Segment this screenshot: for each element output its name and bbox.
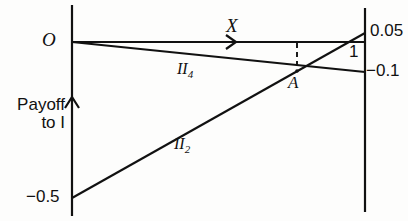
x-axis-label: X <box>226 16 238 36</box>
right-tick-label-005: 0.05 <box>370 22 403 40</box>
left-tick-label-neg05: −0.5 <box>26 188 60 206</box>
line-ii4-label-main: II <box>177 60 188 77</box>
payoff-axis-label-line2: to I <box>3 114 65 132</box>
right-tick-label-neg01: −0.1 <box>366 62 400 80</box>
line-ii4-label: II4 <box>177 61 193 81</box>
origin-label: O <box>42 30 56 50</box>
x-tick-label-one: 1 <box>349 43 358 61</box>
payoff-diagram: O X A II4 II2 Payoff to I 0.05 1 −0.1 −0… <box>0 0 408 221</box>
point-a-label: A <box>288 74 298 92</box>
line-ii4-label-sub: 4 <box>188 68 194 80</box>
line-ii2-label-main: II <box>174 135 185 152</box>
line-ii2-label-sub: 2 <box>185 143 191 155</box>
payoff-axis-label-line1: Payoff <box>3 96 65 114</box>
payoff-axis-label: Payoff to I <box>3 96 65 132</box>
line-ii2-label: II2 <box>174 136 190 156</box>
